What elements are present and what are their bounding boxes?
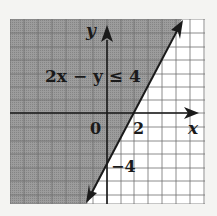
inequality-label: 2x − y ≤ 4 xyxy=(45,66,141,86)
x-tick-label-2: 2 xyxy=(133,119,144,138)
y-axis-label: y xyxy=(85,20,97,40)
origin-label: 0 xyxy=(90,119,101,138)
inequality-graph: y x 2x − y ≤ 4 0 2 −4 xyxy=(0,0,217,216)
y-tick-label-neg4: −4 xyxy=(111,157,136,176)
x-axis-label: x xyxy=(187,118,199,138)
